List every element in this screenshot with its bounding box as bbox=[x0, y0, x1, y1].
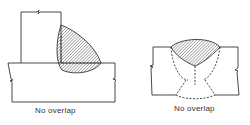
fillet-weld-figure bbox=[8, 10, 116, 102]
groove-weld-figure bbox=[150, 39, 239, 98]
fillet-caption: No overlap bbox=[35, 106, 76, 115]
weld-cap bbox=[171, 39, 220, 66]
vertical-plate bbox=[21, 10, 61, 63]
weld-bead bbox=[57, 25, 101, 73]
groove-caption: No overlap bbox=[174, 104, 215, 113]
